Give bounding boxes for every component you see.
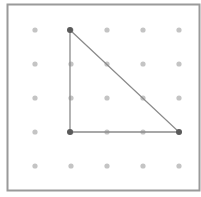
right-triangle (70, 30, 179, 132)
grid-dot (104, 95, 109, 100)
grid-dot (176, 61, 181, 66)
grid-dot (32, 95, 37, 100)
grid-dot (104, 27, 109, 32)
geoboard-diagram (0, 0, 201, 197)
grid-dot (176, 163, 181, 168)
grid-dot (104, 163, 109, 168)
grid-dot (32, 27, 37, 32)
triangle-vertex (176, 129, 182, 135)
grid-dot (176, 27, 181, 32)
grid-dot (140, 27, 145, 32)
grid-dot (32, 61, 37, 66)
grid-dot (68, 163, 73, 168)
triangle-vertex (67, 27, 73, 33)
grid-dot (32, 129, 37, 134)
triangle-vertex (67, 129, 73, 135)
grid-dot (68, 61, 73, 66)
grid-dot (32, 163, 37, 168)
grid-dot (140, 163, 145, 168)
grid-dot (176, 95, 181, 100)
dot-grid (32, 27, 181, 168)
grid-dot (140, 61, 145, 66)
grid-dot (68, 95, 73, 100)
